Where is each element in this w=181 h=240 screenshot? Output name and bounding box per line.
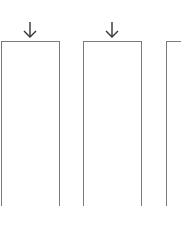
diagram-box-2: [83, 41, 142, 206]
diagram-box-1: [1, 41, 60, 206]
diagram-box-3: [166, 41, 181, 206]
down-arrow-icon: [104, 21, 120, 39]
down-arrow-icon: [22, 21, 38, 39]
